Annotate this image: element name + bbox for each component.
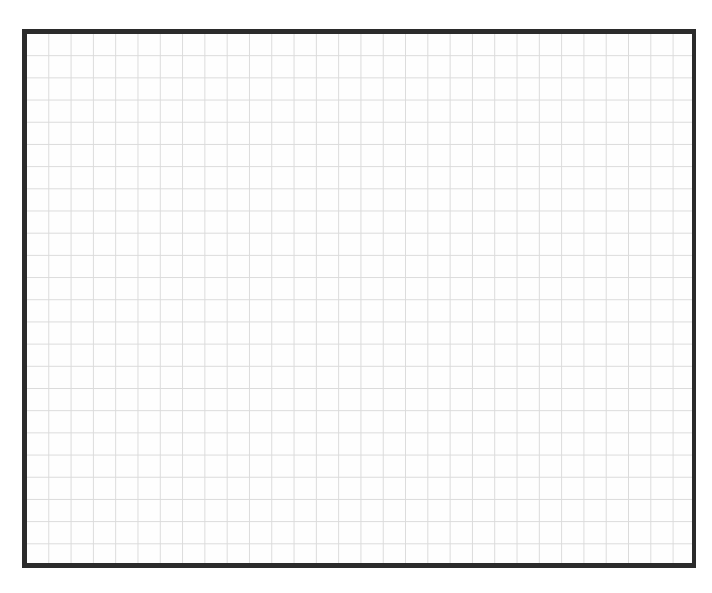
page-canvas [0,0,712,593]
paper-tint-overlay [27,34,692,563]
grid-paper-sheet[interactable] [22,29,696,568]
grid-ruling-area[interactable] [27,34,692,563]
